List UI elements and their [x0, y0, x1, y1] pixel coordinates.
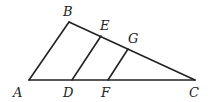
label-b: B — [62, 4, 73, 19]
label-e: E — [99, 18, 110, 33]
segment-ab — [29, 22, 69, 80]
label-d: D — [62, 85, 74, 100]
geometry-diagram: B E G A D F C — [0, 0, 218, 102]
label-a: A — [12, 85, 22, 100]
label-f: F — [100, 85, 111, 100]
label-c: C — [189, 85, 199, 100]
segment-fg — [108, 49, 128, 80]
label-g: G — [128, 31, 138, 46]
segment-de — [72, 36, 101, 80]
